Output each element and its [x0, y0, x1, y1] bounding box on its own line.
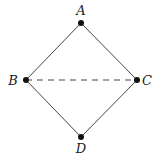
edge-a-c — [81, 23, 137, 80]
label-c: C — [142, 73, 152, 88]
edge-b-d — [26, 80, 81, 137]
node-d — [78, 134, 84, 140]
label-a: A — [75, 3, 85, 18]
node-b — [23, 77, 29, 83]
edge-c-d — [81, 80, 137, 137]
label-b: B — [7, 73, 18, 88]
graph-diagram: A B C D — [0, 0, 159, 163]
edge-a-b — [26, 23, 81, 80]
node-c — [134, 77, 140, 83]
label-d: D — [75, 141, 87, 156]
node-a — [78, 20, 84, 26]
